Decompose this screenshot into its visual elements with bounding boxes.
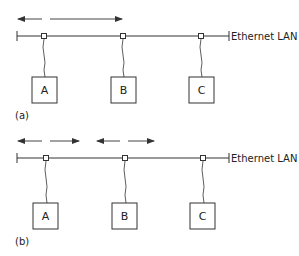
drop-cable-c [200,39,202,77]
panel-b: A B C Ethernet LAN (b) [15,141,297,247]
drop-cable-b [122,39,124,77]
station-b-label: B [121,210,129,223]
tap-c [199,34,204,39]
panel-a: A B C Ethernet LAN (a) [15,19,297,121]
panel-label: (a) [15,110,29,121]
tap-b [123,156,128,161]
station-c-label: C [199,210,207,223]
lan-label: Ethernet LAN [231,153,297,164]
lan-label: Ethernet LAN [231,31,297,42]
tap-a [42,34,47,39]
station-b-label: B [120,84,128,97]
station-c-label: C [198,84,206,97]
tap-b [121,34,126,39]
panel-label: (b) [15,236,29,247]
drop-cable-b [124,161,126,203]
station-a-label: A [41,84,49,97]
drop-cable-a [43,39,45,77]
drop-cable-a [45,161,47,203]
tap-c [201,156,206,161]
ethernet-diagram: A B C Ethernet LAN (a) A B C [0,0,299,256]
drop-cable-c [202,161,204,203]
tap-a [44,156,49,161]
station-a-label: A [42,210,50,223]
